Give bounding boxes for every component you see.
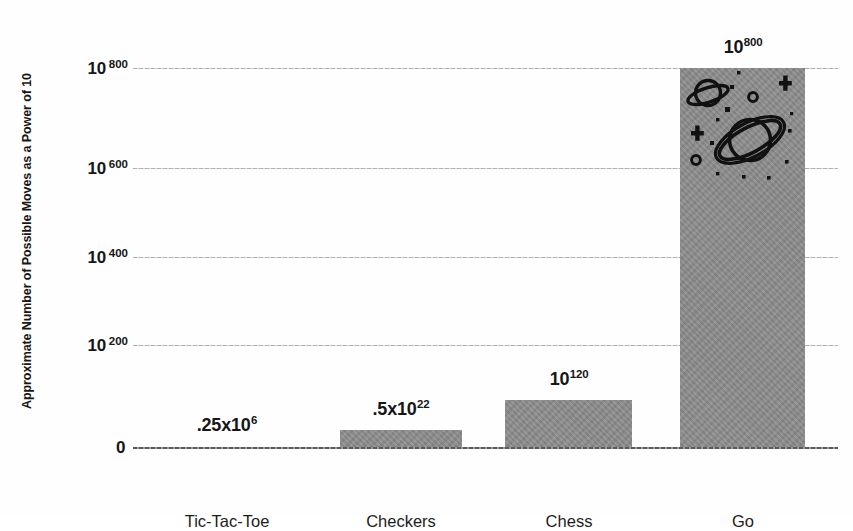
bar-value-chess: 10120: [550, 368, 589, 390]
y-tick-400: 10400: [8, 247, 128, 268]
bar-go[interactable]: [680, 68, 805, 447]
bar-value-chess-base: 10: [550, 369, 570, 389]
x-label-checkers: Checkers: [366, 512, 436, 531]
bar-value-go-exponent: 800: [744, 36, 763, 48]
plot-area: .25x106 .5x1022 10120 10800 Tic-Tac-Toe …: [133, 50, 838, 447]
y-tick-0: 0: [8, 437, 128, 458]
bar-tic-tac-toe[interactable]: [165, 446, 290, 447]
bar-checkers[interactable]: [340, 430, 462, 447]
y-tick-200-base: 10: [87, 336, 106, 355]
bar-value-go-base: 10: [724, 37, 744, 57]
x-label-chess: Chess: [546, 512, 593, 531]
y-tick-200-exponent: 200: [109, 335, 128, 347]
y-tick-400-base: 10: [87, 248, 106, 267]
y-tick-600-exponent: 600: [109, 158, 128, 170]
y-tick-800-exponent: 800: [109, 58, 128, 70]
y-tick-800-base: 10: [87, 59, 106, 78]
bar-value-tic-tac-toe-base: .25x10: [197, 415, 251, 435]
gridline-baseline-zero: [133, 447, 838, 449]
bar-value-tic-tac-toe: .25x106: [197, 414, 258, 436]
y-tick-400-exponent: 400: [109, 247, 128, 259]
y-axis-tick-labels: 10800 10600 10400 10200 0: [0, 50, 128, 447]
x-label-go: Go: [732, 512, 754, 531]
bar-value-checkers-base: .5x10: [373, 399, 417, 419]
bar-value-checkers: .5x1022: [373, 398, 430, 420]
x-label-tic-tac-toe: Tic-Tac-Toe: [185, 512, 270, 531]
y-tick-200: 10200: [8, 335, 128, 356]
y-tick-600: 10600: [8, 158, 128, 179]
space-planets-illustration: [680, 68, 805, 193]
y-tick-600-base: 10: [87, 159, 106, 178]
bar-chess[interactable]: [505, 400, 632, 447]
bar-value-tic-tac-toe-exponent: 6: [251, 414, 257, 426]
bar-value-chess-exponent: 120: [570, 368, 589, 380]
y-tick-800: 10800: [8, 58, 128, 79]
bar-value-checkers-exponent: 22: [417, 398, 429, 410]
y-tick-0-base: 0: [116, 438, 125, 457]
bar-value-go: 10800: [724, 36, 763, 58]
